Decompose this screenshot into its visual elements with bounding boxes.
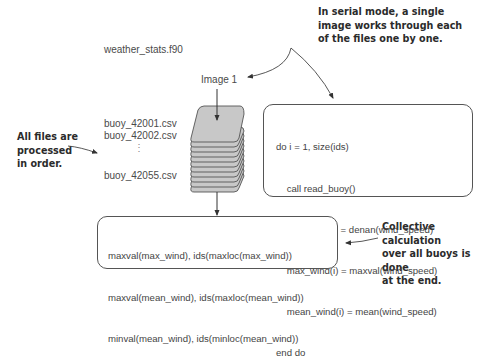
code-line: maxval(mean_wind), ids(maxloc(mean_wind)… <box>108 291 304 305</box>
collective-note-arrow <box>346 238 378 243</box>
serial-to-loop-arrow <box>291 48 333 98</box>
serial-to-image-arrow <box>248 48 291 77</box>
order-note-arrow <box>68 146 97 153</box>
code-line: minval(mean_wind), ids(minloc(mean_wind)… <box>108 332 304 346</box>
